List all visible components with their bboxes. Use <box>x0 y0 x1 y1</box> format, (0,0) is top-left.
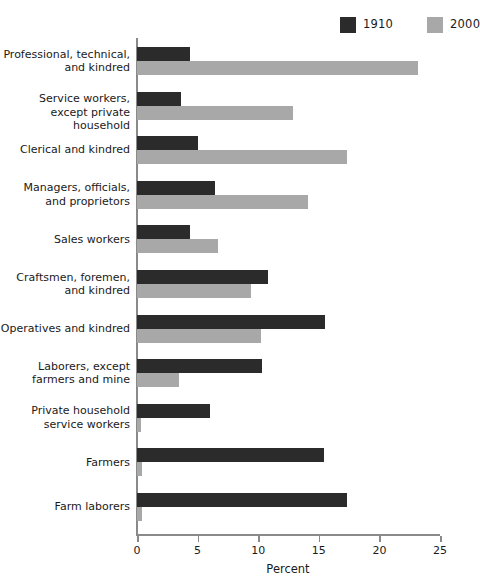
bar-2000 <box>137 239 218 253</box>
x-tick-25 <box>440 536 442 542</box>
bar-group: Clerical and kindred <box>0 136 460 164</box>
bar-1910 <box>137 493 347 507</box>
category-label: Operatives and kindred <box>0 322 130 336</box>
x-tick-label-0: 0 <box>134 544 141 557</box>
bar-group: Private household service workers <box>0 404 460 432</box>
category-label: Managers, officials, and proprietors <box>0 181 130 208</box>
bar-group: Service workers, except private househol… <box>0 92 460 120</box>
bar-1910 <box>137 315 325 329</box>
category-label: Laborers, except farmers and mine <box>0 360 130 387</box>
bar-2000 <box>137 329 261 343</box>
bar-group: Craftsmen, foremen, and kindred <box>0 270 460 298</box>
x-tick-label-25: 25 <box>433 544 447 557</box>
bar-group: Farm laborers <box>0 493 460 521</box>
x-tick-5 <box>198 536 200 542</box>
bar-group: Laborers, except farmers and mine <box>0 359 460 387</box>
x-tick-20 <box>379 536 381 542</box>
bar-2000 <box>137 373 179 387</box>
category-label: Service workers, except private househol… <box>0 92 130 133</box>
x-tick-label-20: 20 <box>372 544 386 557</box>
bar-2000 <box>137 195 308 209</box>
bar-1910 <box>137 92 181 106</box>
x-axis-line <box>136 534 440 536</box>
bar-1910 <box>137 225 190 239</box>
bar-2000 <box>137 507 142 521</box>
bar-2000 <box>137 106 293 120</box>
category-label: Farm laborers <box>0 500 130 514</box>
bar-group: Managers, officials, and proprietors <box>0 181 460 209</box>
category-label: Sales workers <box>0 233 130 247</box>
category-label: Farmers <box>0 456 130 470</box>
x-tick-0 <box>137 536 139 542</box>
bar-2000 <box>137 462 142 476</box>
bar-2000 <box>137 61 418 75</box>
category-label: Private household service workers <box>0 404 130 431</box>
x-tick-15 <box>319 536 321 542</box>
x-tick-label-10: 10 <box>251 544 265 557</box>
bar-group: Operatives and kindred <box>0 315 460 343</box>
bar-1910 <box>137 136 198 150</box>
category-label: Clerical and kindred <box>0 143 130 157</box>
bar-1910 <box>137 359 262 373</box>
bar-2000 <box>137 284 251 298</box>
x-tick-label-15: 15 <box>312 544 326 557</box>
bar-2000 <box>137 150 347 164</box>
bar-1910 <box>137 448 324 462</box>
x-axis-title: Percent <box>136 562 440 576</box>
bar-group: Farmers <box>0 448 460 476</box>
bar-1910 <box>137 47 190 61</box>
x-tick-label-5: 5 <box>194 544 201 557</box>
bar-2000 <box>137 418 141 432</box>
bar-1910 <box>137 404 210 418</box>
bar-group: Professional, technical, and kindred <box>0 47 460 75</box>
bar-1910 <box>137 181 215 195</box>
bar-1910 <box>137 270 268 284</box>
x-tick-10 <box>258 536 260 542</box>
category-label: Craftsmen, foremen, and kindred <box>0 271 130 298</box>
bar-group: Sales workers <box>0 225 460 253</box>
category-label: Professional, technical, and kindred <box>0 48 130 75</box>
